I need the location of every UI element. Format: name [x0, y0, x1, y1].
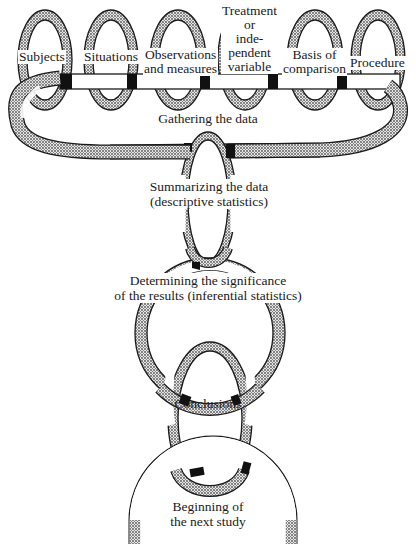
label-treatment-line-1: Treatment — [222, 4, 277, 18]
label-gathering: Gathering the data — [0, 112, 416, 127]
label-subjects-text: Subjects — [19, 49, 65, 64]
chain-diagram — [0, 0, 416, 544]
label-next-study: Beginning of the next study — [0, 500, 416, 530]
label-treatment: Treatment or inde- pendent variable — [221, 4, 278, 74]
label-observations: Observations and measures — [143, 48, 218, 76]
label-gathering-text: Gathering the data — [158, 111, 258, 126]
label-next-study-line-2: the next study — [0, 515, 416, 530]
label-treatment-line-2: or — [222, 18, 277, 32]
label-treatment-line-5: variable — [222, 60, 277, 74]
label-observations-line-1: Observations — [144, 48, 217, 62]
label-basis-line-1: Basis of — [283, 48, 346, 62]
label-significance-line-2: of the results (inferential statistics) — [112, 288, 303, 303]
label-conclusions-text: Conclusions — [175, 396, 242, 411]
label-observations-line-2: and measures — [144, 62, 217, 76]
label-summarizing: Summarizing the data (descriptive statis… — [0, 180, 416, 210]
label-treatment-line-4: pendent — [222, 46, 277, 60]
label-significance-line-1: Determining the significance — [128, 273, 289, 288]
top-bar — [60, 74, 400, 89]
label-treatment-line-3: inde- — [222, 32, 277, 46]
label-summarizing-line-2: (descriptive statistics) — [148, 194, 270, 209]
label-summarizing-line-1: Summarizing the data — [148, 179, 270, 194]
label-conclusions: Conclusions — [0, 397, 416, 412]
label-basis: Basis of comparison — [282, 48, 347, 76]
label-procedure-text: Procedure — [350, 55, 405, 70]
label-basis-line-2: comparison — [283, 62, 346, 76]
label-situations-text: Situations — [84, 49, 138, 64]
label-situations: Situations — [83, 50, 139, 64]
label-procedure: Procedure — [349, 56, 406, 70]
label-next-study-line-1: Beginning of — [0, 500, 416, 515]
label-significance: Determining the significance of the resu… — [0, 274, 416, 304]
label-subjects: Subjects — [18, 50, 66, 64]
